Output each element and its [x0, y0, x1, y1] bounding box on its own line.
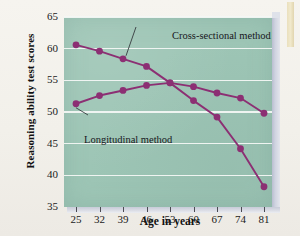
- x-tick: [147, 207, 148, 212]
- data-point-marker: [96, 92, 103, 99]
- x-tick: [170, 207, 171, 212]
- x-tick: [194, 207, 195, 212]
- annotation-longitudinal: Longitudinal method: [84, 134, 172, 145]
- data-point-marker: [214, 90, 221, 97]
- annotation-cross-sectional: Cross-sectional method: [172, 30, 271, 41]
- data-point-marker: [261, 183, 268, 190]
- x-tick: [123, 207, 124, 212]
- data-series-layer: [64, 17, 272, 207]
- data-point-marker: [73, 41, 80, 48]
- x-tick: [241, 207, 242, 212]
- annotation-leader-line: [126, 27, 136, 56]
- y-tick-label: 65: [32, 10, 58, 22]
- y-axis-title: Reasoning ability test scores: [24, 11, 36, 191]
- plot-area-wrapper: 65605550454035 253239465360677481 Cross-…: [64, 17, 272, 207]
- series-line: [76, 45, 264, 187]
- plot-3d-right-edge: [272, 12, 280, 207]
- y-tick-label: 55: [32, 73, 58, 85]
- data-point-marker: [143, 82, 150, 89]
- y-tick-label: 40: [32, 168, 58, 180]
- data-point-marker: [237, 145, 244, 152]
- data-point-marker: [190, 97, 197, 104]
- data-point-marker: [237, 95, 244, 102]
- chart-figure: Reasoning ability test scores 6560555045…: [0, 0, 300, 236]
- y-tick-label: 50: [32, 105, 58, 117]
- data-point-marker: [261, 110, 268, 117]
- annotation-leader-line: [76, 108, 88, 115]
- series-line: [76, 83, 264, 113]
- data-point-marker: [167, 79, 174, 86]
- page-background: Reasoning ability test scores 6560555045…: [0, 0, 300, 236]
- y-tick-label: 60: [32, 42, 58, 54]
- y-tick-label: 35: [32, 200, 58, 212]
- x-tick: [76, 207, 77, 212]
- x-tick: [100, 207, 101, 212]
- x-tick: [217, 207, 218, 212]
- data-point-marker: [143, 63, 150, 70]
- plot-3d-top-cap: [272, 12, 280, 18]
- x-axis-title: Age in years: [60, 215, 280, 227]
- data-point-marker: [96, 48, 103, 55]
- data-point-marker: [73, 100, 80, 107]
- data-point-marker: [190, 83, 197, 90]
- data-point-marker: [120, 55, 127, 62]
- y-tick-label: 45: [32, 137, 58, 149]
- data-point-marker: [120, 87, 127, 94]
- data-point-marker: [214, 114, 221, 121]
- x-tick: [264, 207, 265, 212]
